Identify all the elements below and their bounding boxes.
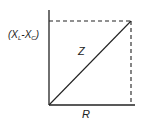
hypotenuse-label: Z [77,45,86,57]
hypotenuse-line [49,21,131,105]
horizontal-axis-label: R [82,108,90,120]
impedance-diagram: (XL-XC) Z R [0,0,144,123]
vertical-axis-label: (XL-XC) [8,29,39,41]
